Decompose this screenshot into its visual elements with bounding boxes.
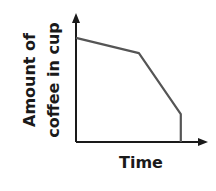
x-axis-label: Time — [116, 153, 166, 172]
y-axis-arrow-icon — [72, 13, 80, 23]
y-axis-label-line-2: coffee in cup — [42, 15, 66, 145]
x-axis-arrow-icon — [198, 138, 208, 146]
y-axis-label: Amount of coffee in cup — [18, 15, 66, 145]
y-axis-label-line-1: Amount of — [18, 15, 42, 145]
coffee-amount-line — [76, 38, 181, 142]
chart: Amount of coffee in cup Time — [0, 0, 216, 191]
